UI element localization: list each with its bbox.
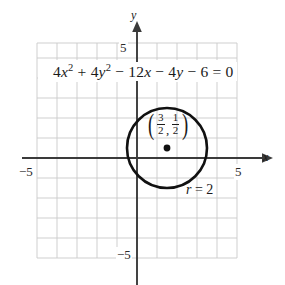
equation-minus-3: −	[187, 63, 196, 80]
circle-graph-figure	[0, 0, 285, 285]
equation-plus: +	[78, 63, 87, 80]
radius-value: 2	[206, 182, 213, 197]
equation-minus-2: −	[155, 63, 164, 80]
equation-var-x: x	[61, 63, 68, 80]
equation-rhs: 0	[226, 63, 234, 80]
center-y-numerator: 1	[172, 112, 180, 123]
center-y-denominator: 2	[172, 125, 180, 136]
center-point-marker	[164, 145, 171, 152]
center-x-denominator: 2	[157, 125, 165, 136]
center-close-paren: )	[182, 112, 188, 137]
equation-var-x-linear: x	[144, 63, 151, 80]
center-open-paren: (	[148, 112, 154, 137]
center-x-fraction: 3 2	[156, 112, 166, 136]
equation-coef-x2: 4	[53, 63, 61, 80]
equation-exponent-y: 2	[106, 62, 111, 73]
equation-var-y-linear: y	[176, 63, 183, 80]
x-axis-tick-5: 5	[234, 164, 243, 180]
radius-equals: =	[195, 182, 203, 197]
equation-coef-12: 12	[128, 63, 144, 80]
equation-equals: =	[213, 63, 222, 80]
y-axis-tick-minus-5: −5	[116, 247, 132, 263]
radius-symbol: r	[186, 182, 191, 197]
equation-label: 4x2 + 4y2 − 12x − 4y − 6 = 0	[50, 62, 237, 81]
y-axis-tick-5: 5	[119, 40, 128, 56]
center-coordinate-label: ( 3 2 , 1 2 )	[146, 112, 190, 137]
x-axis-label: x	[263, 150, 268, 165]
equation-exponent-x: 2	[68, 62, 73, 73]
equation-coef-y2: 4	[91, 63, 99, 80]
equation-minus-1: −	[115, 63, 124, 80]
center-y-fraction: 1 2	[171, 112, 181, 136]
center-x-numerator: 3	[157, 112, 165, 123]
radius-label: r = 2	[186, 182, 213, 198]
equation-constant: 6	[201, 63, 209, 80]
x-axis-tick-minus-5: −5	[18, 164, 34, 180]
equation-var-y: y	[99, 63, 106, 80]
center-comma: ,	[166, 123, 171, 136]
y-axis-label: y	[131, 8, 136, 23]
